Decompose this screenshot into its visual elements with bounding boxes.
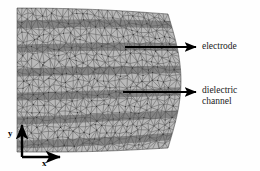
x-axis-label: x	[42, 158, 47, 168]
dielectric-channel-label: dielectric channel	[202, 85, 237, 106]
electrode-label: electrode	[202, 41, 237, 52]
dielectric-channel-label-line2: channel	[202, 96, 237, 107]
figure-root: electrode dielectric channel y x	[0, 0, 260, 171]
mesh-body	[16, 7, 181, 152]
y-axis-label: y	[8, 128, 13, 138]
dielectric-channel-label-line1: dielectric	[202, 85, 237, 95]
